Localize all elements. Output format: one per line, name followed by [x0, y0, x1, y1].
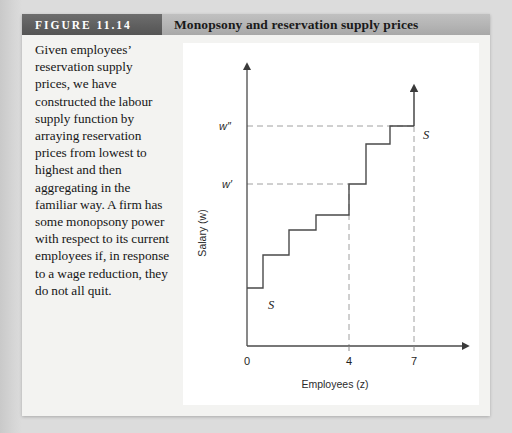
- figure-header-bar: FIGURE 11.14 Monopsony and reservation s…: [22, 14, 490, 35]
- supply-label-upper: S: [423, 128, 430, 142]
- figure-root: FIGURE 11.14 Monopsony and reservation s…: [0, 0, 512, 433]
- plot-background: [183, 43, 479, 405]
- y-tick-label-w-prime: w′: [222, 178, 233, 190]
- supply-label-lower: S: [268, 298, 275, 312]
- chart-canvas: w″ w′ 0 4 7 Employees (z) Salary (w) S S: [183, 43, 479, 405]
- figure-caption: Given employees’ reservation supply pric…: [35, 41, 170, 299]
- figure-title: Monopsony and reservation supply prices: [174, 14, 418, 35]
- figure-panel: FIGURE 11.14 Monopsony and reservation s…: [22, 14, 490, 416]
- x-tick-label-7: 7: [411, 355, 417, 367]
- figure-number-badge: FIGURE 11.14: [22, 14, 162, 35]
- y-tick-label-w-double-prime: w″: [219, 120, 232, 132]
- x-tick-label-4: 4: [346, 355, 352, 367]
- x-tick-label-0: 0: [244, 355, 250, 367]
- x-axis-title: Employees (z): [301, 378, 368, 390]
- supply-step-chart: w″ w′ 0 4 7 Employees (z) Salary (w) S S: [183, 43, 479, 405]
- y-axis-title: Salary (w): [196, 209, 208, 256]
